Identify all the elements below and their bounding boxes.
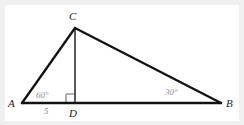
geometry-diagram: C A B D 60° 30° 5 xyxy=(0,0,244,125)
right-angle-marker-icon xyxy=(66,94,75,103)
vertex-label-a: A xyxy=(8,98,15,109)
angle-label-a: 60° xyxy=(36,91,49,100)
vertex-label-d: D xyxy=(69,108,77,119)
vertex-label-b: B xyxy=(226,98,233,109)
angle-label-b: 30° xyxy=(165,88,178,97)
length-label-ad: 5 xyxy=(44,107,49,116)
side-segment-cb xyxy=(75,28,221,103)
triangle-figure xyxy=(0,0,244,125)
vertex-label-c: C xyxy=(69,11,76,22)
